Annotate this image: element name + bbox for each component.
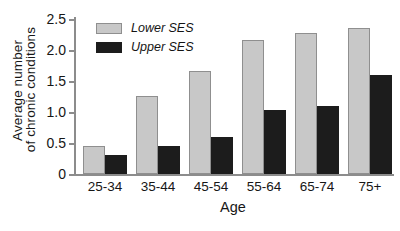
x-axis-tick-label: 45-54 (194, 179, 229, 194)
legend-label-lower-ses: Lower SES (131, 21, 194, 35)
y-axis-tick-mark (69, 174, 74, 176)
bar-lower-ses[interactable] (242, 40, 264, 174)
legend-entry-upper-ses: Upper SES (96, 40, 194, 54)
bar-upper-ses[interactable] (370, 75, 392, 174)
bar-upper-ses[interactable] (211, 137, 233, 174)
legend-entry-lower-ses: Lower SES (96, 21, 194, 35)
legend-swatch-lower-ses (96, 23, 122, 34)
x-axis-tick-label: 75+ (359, 179, 382, 194)
x-axis-title: Age (74, 199, 392, 215)
bar-lower-ses[interactable] (189, 71, 211, 174)
chart-figure: Average number of chronic conditions 00.… (0, 0, 400, 231)
y-axis-title-line-2: of chronic conditions (24, 27, 38, 152)
y-axis-tick-label: 2.0 (47, 42, 66, 58)
y-axis-title-line-1: Average number (11, 40, 25, 141)
x-axis-tick-label: 55-64 (247, 179, 282, 194)
y-axis-title: Average number of chronic conditions (2, 0, 46, 180)
bar-group (344, 19, 397, 174)
x-axis-tick-label: 25-34 (88, 179, 123, 194)
x-axis-line (72, 174, 394, 176)
x-axis-tick-label: 65-74 (300, 179, 335, 194)
bar-upper-ses[interactable] (105, 155, 127, 174)
y-axis-tick-label: 1.5 (47, 73, 66, 89)
bar-upper-ses[interactable] (158, 146, 180, 174)
bar-lower-ses[interactable] (348, 28, 370, 174)
legend-swatch-upper-ses (96, 42, 122, 53)
bar-lower-ses[interactable] (136, 96, 158, 174)
legend-label-upper-ses: Upper SES (131, 40, 194, 54)
y-axis-tick-label: 0.5 (47, 135, 66, 151)
y-axis-tick-label: 0 (58, 166, 66, 182)
bar-upper-ses[interactable] (317, 106, 339, 174)
bar-upper-ses[interactable] (264, 110, 286, 174)
y-axis-tick-label: 1.0 (47, 104, 66, 120)
x-axis-tick-label: 35-44 (141, 179, 176, 194)
bar-lower-ses[interactable] (295, 33, 317, 174)
y-axis-tick-label: 2.5 (47, 11, 66, 27)
bar-group (238, 19, 291, 174)
chart-legend: Lower SES Upper SES (96, 21, 194, 54)
bar-lower-ses[interactable] (83, 146, 105, 174)
bar-group (291, 19, 344, 174)
